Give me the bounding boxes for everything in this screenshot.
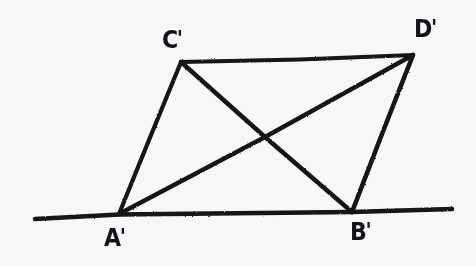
label-a-prime-letter: A [104, 224, 121, 252]
label-a-prime: A' [104, 226, 125, 250]
label-d-prime-letter: D [414, 15, 432, 43]
label-c-prime-mark: ' [177, 26, 183, 51]
label-b-prime-mark: ' [365, 218, 371, 243]
figure-drawing [0, 0, 476, 266]
label-b-prime-letter: B [350, 218, 366, 246]
label-b-prime: B' [350, 220, 371, 244]
label-d-prime-mark: ' [431, 15, 437, 40]
label-c-prime-letter: C [162, 26, 178, 54]
label-a-prime-mark: ' [120, 224, 126, 249]
segment-c-b-diagonal [181, 62, 352, 212]
geometry-figure: C' D' A' B' [0, 0, 476, 266]
segment-baseline [35, 209, 452, 219]
label-c-prime: C' [162, 28, 183, 52]
segment-c-d [181, 55, 413, 62]
label-d-prime: D' [414, 17, 437, 41]
segment-d-b [352, 55, 413, 212]
segment-a-d-diagonal [119, 55, 413, 214]
segment-a-c [119, 62, 181, 214]
